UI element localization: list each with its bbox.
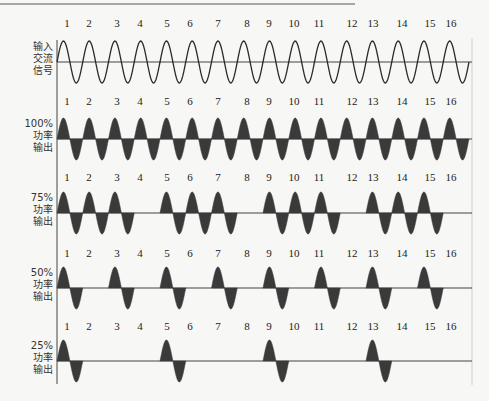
negative-half-cycle xyxy=(224,139,237,160)
negative-half-cycle xyxy=(173,139,186,160)
row-label-line: 输入 xyxy=(33,40,53,52)
positive-half-cycle xyxy=(57,192,70,213)
positive-half-cycle xyxy=(212,192,225,213)
cycle-number-label: 10 xyxy=(289,95,301,107)
positive-half-cycle xyxy=(392,192,405,213)
cycle-number-label: 11 xyxy=(314,17,325,29)
positive-half-cycle xyxy=(109,267,122,288)
negative-half-cycle xyxy=(379,361,392,382)
cycle-number-label: 4 xyxy=(137,247,143,259)
positive-half-cycle xyxy=(186,192,199,213)
positive-half-cycle xyxy=(289,192,302,213)
cycle-number-label: 9 xyxy=(266,247,272,259)
row-label-line: 输出 xyxy=(33,363,53,375)
cycle-number-label: 2 xyxy=(86,95,92,107)
cycle-number-label: 10 xyxy=(289,247,301,259)
cycle-number-label: 4 xyxy=(137,95,143,107)
cycle-number-label: 14 xyxy=(397,247,409,259)
cycle-number-label: 12 xyxy=(347,320,358,332)
positive-half-cycle xyxy=(134,118,147,139)
negative-half-cycle xyxy=(302,213,315,234)
positive-half-cycle xyxy=(340,118,353,139)
cycle-number-label: 6 xyxy=(187,17,193,29)
cycle-number-label: 3 xyxy=(114,247,120,259)
cycle-number-label: 12 xyxy=(347,17,358,29)
positive-half-cycle xyxy=(83,118,96,139)
cycle-number-label: 6 xyxy=(187,320,193,332)
cycle-number-label: 1 xyxy=(64,247,70,259)
cycle-number-label: 2 xyxy=(86,171,92,183)
negative-half-cycle xyxy=(121,213,134,234)
positive-half-cycle xyxy=(315,118,328,139)
cycle-number-label: 5 xyxy=(164,17,170,29)
cycle-number-label: 2 xyxy=(86,247,92,259)
positive-half-cycle xyxy=(160,267,173,288)
cycle-number-label: 14 xyxy=(397,17,409,29)
cycle-number-label: 8 xyxy=(244,320,250,332)
positive-half-cycle xyxy=(418,192,431,213)
row-label-line: 输出 xyxy=(33,215,53,227)
row-label-line: 输出 xyxy=(33,141,53,153)
cycle-number-label: 3 xyxy=(114,95,120,107)
cycle-number-label: 9 xyxy=(266,17,272,29)
cycle-number-label: 10 xyxy=(289,17,301,29)
cycle-number-label: 1 xyxy=(64,17,70,29)
positive-half-cycle xyxy=(263,267,276,288)
negative-half-cycle xyxy=(96,213,109,234)
cycle-number-label: 5 xyxy=(164,247,170,259)
row-label-line: 信号 xyxy=(33,65,53,76)
cycle-number-label: 15 xyxy=(425,171,437,183)
cycle-number-label: 13 xyxy=(368,17,380,29)
cycle-number-label: 7 xyxy=(215,95,221,107)
power-waveform-diagram: 12345678910111213141516输入交流信号12345678910… xyxy=(0,0,489,401)
cycle-number-label: 13 xyxy=(368,247,380,259)
cycle-number-label: 16 xyxy=(446,95,458,107)
positive-half-cycle xyxy=(315,192,328,213)
negative-half-cycle xyxy=(430,139,443,160)
cycle-number-label: 9 xyxy=(266,320,272,332)
cycle-number-label: 1 xyxy=(64,171,70,183)
cycle-number-label: 15 xyxy=(425,247,437,259)
cycle-number-label: 11 xyxy=(314,171,325,183)
cycle-number-label: 11 xyxy=(314,95,325,107)
negative-half-cycle xyxy=(121,139,134,160)
row-label-line: 100% xyxy=(24,118,53,129)
cycle-number-label: 7 xyxy=(215,247,221,259)
cycle-number-label: 4 xyxy=(137,171,143,183)
cycle-number-label: 5 xyxy=(164,95,170,107)
positive-half-cycle xyxy=(237,118,250,139)
cycle-number-label: 5 xyxy=(164,320,170,332)
positive-half-cycle xyxy=(160,118,173,139)
negative-half-cycle xyxy=(327,288,340,309)
negative-half-cycle xyxy=(96,139,109,160)
waveform-row-power-25: 1234567891011121314151625%功率输出 xyxy=(31,320,472,382)
cycle-number-label: 7 xyxy=(215,320,221,332)
negative-half-cycle xyxy=(276,213,289,234)
positive-half-cycle xyxy=(109,118,122,139)
positive-half-cycle xyxy=(366,192,379,213)
row-label-line: 交流 xyxy=(33,52,53,64)
cycle-number-label: 4 xyxy=(137,320,143,332)
row-label-line: 输出 xyxy=(33,290,53,302)
positive-half-cycle xyxy=(263,340,276,361)
positive-half-cycle xyxy=(57,118,70,139)
positive-half-cycle xyxy=(418,118,431,139)
cycle-number-label: 14 xyxy=(397,95,409,107)
negative-half-cycle xyxy=(199,139,212,160)
negative-half-cycle xyxy=(70,213,83,234)
negative-half-cycle xyxy=(147,139,160,160)
row-label-line: 50% xyxy=(31,267,53,278)
cycle-number-label: 6 xyxy=(187,247,193,259)
cycle-number-label: 16 xyxy=(446,17,458,29)
positive-half-cycle xyxy=(263,118,276,139)
positive-half-cycle xyxy=(83,192,96,213)
cycle-number-label: 3 xyxy=(114,320,120,332)
negative-half-cycle xyxy=(199,213,212,234)
negative-half-cycle xyxy=(430,288,443,309)
cycle-number-label: 2 xyxy=(86,320,92,332)
positive-half-cycle xyxy=(212,118,225,139)
negative-half-cycle xyxy=(70,361,83,382)
negative-half-cycle xyxy=(70,288,83,309)
cycle-number-label: 12 xyxy=(347,247,358,259)
negative-half-cycle xyxy=(379,139,392,160)
